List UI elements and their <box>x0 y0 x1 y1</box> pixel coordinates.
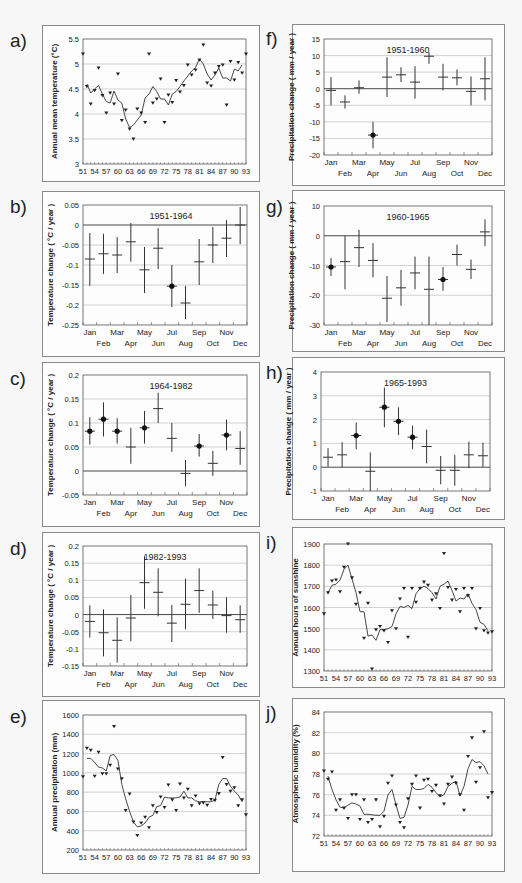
data-point-marker <box>358 591 362 594</box>
ytick-label: 82 <box>312 729 320 738</box>
data-point-marker <box>170 101 174 104</box>
data-point-marker <box>470 736 474 739</box>
data-point-marker <box>174 809 178 812</box>
data-point-marker <box>338 590 342 593</box>
period-title: 1964-1982 <box>149 381 192 391</box>
ytick-label: 0 <box>75 611 79 620</box>
data-point-marker <box>474 781 478 784</box>
data-point-marker <box>378 825 382 828</box>
xtick-label-mar: Mar <box>352 158 366 167</box>
data-point-marker <box>486 631 490 634</box>
data-point-marker <box>390 775 394 778</box>
ytick-label: 1600 <box>62 711 79 720</box>
xtick-label-jun: Jun <box>152 339 165 348</box>
y-axis-label: Annual hours of sunshine <box>291 558 300 657</box>
ytick-label: 80 <box>312 749 320 758</box>
data-point-marker <box>147 826 151 829</box>
ytick-label: 3 <box>313 392 317 401</box>
data-point-marker <box>362 637 366 640</box>
data-point-marker <box>458 610 462 613</box>
xtick-label: 90 <box>230 853 238 862</box>
ytick-label: 10 <box>312 52 320 61</box>
xtick-label: 66 <box>137 853 145 862</box>
ytick-label: 1600 <box>303 604 320 613</box>
data-point-marker <box>166 783 170 786</box>
data-point-marker <box>108 764 112 767</box>
xtick-label-aug: Aug <box>178 680 192 689</box>
data-point-marker <box>244 53 248 56</box>
data-point-marker <box>151 804 155 807</box>
data-point-marker <box>414 601 418 604</box>
ytick-label: 0.05 <box>64 201 79 210</box>
xtick-label: 90 <box>476 839 484 848</box>
xtick-label-jan: Jan <box>83 498 96 507</box>
xtick-label: 90 <box>230 167 238 176</box>
xtick-label-jul: Jul <box>167 669 177 678</box>
data-point-marker <box>462 809 466 812</box>
ytick-label: 5 <box>316 68 320 77</box>
xtick-label-dec: Dec <box>233 680 247 689</box>
ytick-label: -15 <box>309 134 320 143</box>
xtick-label-dec: Dec <box>478 169 492 178</box>
data-point-marker <box>143 121 147 124</box>
ytick-label: -30 <box>309 321 320 330</box>
data-point-marker <box>430 599 434 602</box>
ytick-label: 4.5 <box>69 85 79 94</box>
xtick-label-oct: Oct <box>451 169 464 178</box>
data-point-marker <box>100 772 104 775</box>
data-point-marker <box>330 580 334 583</box>
data-point-marker <box>170 798 174 801</box>
xtick-label-dec: Dec <box>233 509 247 518</box>
xtick-label: 51 <box>320 839 328 848</box>
y-axis-label: Temperature change ( °C / year ) <box>46 204 55 327</box>
ytick-label: 0.2 <box>69 542 79 551</box>
data-point-marker <box>338 798 342 801</box>
xtick-label-jun: Jun <box>152 509 165 518</box>
ytick-label: 0.1 <box>69 419 79 428</box>
xtick-label: 87 <box>464 839 472 848</box>
data-point-marker <box>434 784 438 787</box>
xtick-label: 54 <box>90 853 98 862</box>
data-point-marker <box>194 795 198 798</box>
xtick-label: 51 <box>79 853 87 862</box>
xtick-label: 93 <box>488 839 496 848</box>
data-point-marker <box>402 587 406 590</box>
xtick-label-nov: Nov <box>219 669 233 678</box>
significant-marker <box>396 419 401 424</box>
xtick-label: 60 <box>114 167 122 176</box>
data-point-marker <box>116 73 120 76</box>
xtick-label: 54 <box>332 839 340 848</box>
xtick-label-sep: Sep <box>192 498 207 507</box>
xtick-label-may: May <box>137 669 152 678</box>
xtick-label: 60 <box>356 839 364 848</box>
chart-h: -101234Precipitation change ( mm / year … <box>284 367 490 514</box>
xtick-label-nov: Nov <box>219 498 233 507</box>
xtick-label-sep: Sep <box>436 328 451 337</box>
xtick-label: 54 <box>90 167 98 176</box>
ytick-label: -0.05 <box>62 491 79 500</box>
period-title: 1960-1965 <box>386 212 429 222</box>
ytick-label: 1000 <box>62 769 79 778</box>
data-point-marker <box>232 79 236 82</box>
ytick-label: 0.05 <box>64 443 79 452</box>
data-point-marker <box>366 821 370 824</box>
significant-marker <box>410 435 415 440</box>
data-point-marker <box>398 598 402 601</box>
y-axis-label: Temperature change ( °C / year ) <box>46 374 55 497</box>
xtick-label-oct: Oct <box>451 339 464 348</box>
xtick-label-mar: Mar <box>110 669 124 678</box>
xtick-label: 69 <box>149 853 157 862</box>
xtick-label-jun: Jun <box>152 680 165 689</box>
xtick-label-aug: Aug <box>422 169 436 178</box>
data-point-marker <box>178 91 182 94</box>
data-point-marker <box>466 755 470 758</box>
data-point-marker <box>221 756 225 759</box>
data-point-marker <box>470 587 474 590</box>
xtick-label-may: May <box>377 494 392 503</box>
ytick-label: 10 <box>312 202 320 211</box>
xtick-label: 66 <box>380 839 388 848</box>
xtick-label: 51 <box>79 167 87 176</box>
ytick-label: -0.1 <box>66 645 79 654</box>
data-point-marker <box>394 804 398 807</box>
xtick-label: 51 <box>320 674 328 683</box>
